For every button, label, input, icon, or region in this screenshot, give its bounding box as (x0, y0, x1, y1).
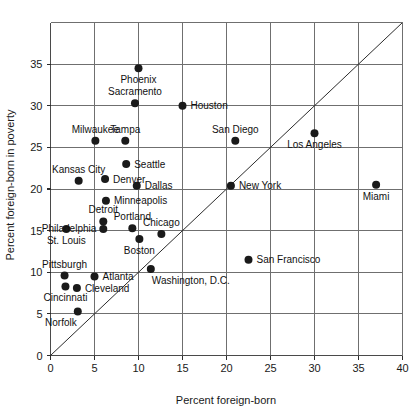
data-point-label: St. Louis (47, 235, 86, 246)
data-point (61, 272, 69, 280)
data-point (147, 265, 155, 273)
x-axis-title: Percent foreign-born (176, 394, 276, 406)
data-point (311, 129, 319, 137)
data-point-label: San Diego (212, 124, 259, 135)
data-point (135, 64, 143, 72)
data-point (74, 307, 82, 315)
data-point-label: Washington, D.C. (152, 275, 230, 286)
scatter-plot-canvas: 0510152025303540 05101520253035 PhoenixS… (0, 0, 417, 414)
data-point-labels: PhoenixSacramentoHoustonLos AngelesMilwa… (42, 74, 390, 328)
x-tick-label: 20 (220, 362, 232, 374)
x-tick-label: 30 (308, 362, 320, 374)
data-point (75, 177, 83, 185)
data-point-label: Cleveland (85, 283, 129, 294)
data-point-label: Denver (113, 174, 146, 185)
data-point-label: Norfolk (45, 317, 78, 328)
y-axis-tick-labels: 05101520253035 (30, 58, 42, 361)
data-point (231, 137, 239, 145)
y-tick-label: 25 (30, 141, 42, 153)
scatter-chart: 0510152025303540 05101520253035 PhoenixS… (0, 0, 417, 414)
data-point-label: Chicago (143, 217, 180, 228)
y-tick-label: 30 (30, 100, 42, 112)
y-tick-label: 10 (30, 266, 42, 278)
data-point-label: Pittsburgh (42, 259, 87, 270)
x-tick-label: 15 (176, 362, 188, 374)
data-point (157, 230, 165, 238)
y-tick-label: 35 (30, 58, 42, 70)
data-point (372, 181, 380, 189)
data-point (61, 282, 69, 290)
x-tick-label: 35 (352, 362, 364, 374)
data-point-label: Phoenix (120, 74, 156, 85)
data-point (91, 272, 99, 280)
data-point-label: Miami (363, 191, 390, 202)
data-point-label: Sacramento (108, 86, 162, 97)
data-point (245, 256, 253, 264)
x-axis-tick-labels: 0510152025303540 (47, 362, 408, 374)
data-point-label: Seattle (134, 159, 166, 170)
data-point-label: Los Angeles (287, 139, 342, 150)
data-point-label: Houston (191, 100, 228, 111)
y-tick-label: 20 (30, 183, 42, 195)
data-point (131, 99, 139, 107)
data-point (73, 284, 81, 292)
data-point (102, 197, 110, 205)
data-point (99, 217, 107, 225)
data-point (122, 160, 130, 168)
data-point-label: Dallas (145, 180, 173, 191)
data-point (121, 137, 129, 145)
data-point-label: Kansas City (52, 164, 105, 175)
data-point (179, 102, 187, 110)
data-point-label: Atlanta (103, 271, 135, 282)
data-point-label: Philadelphia (42, 223, 97, 234)
data-point-label: San Francisco (257, 254, 321, 265)
data-point-label: Boston (124, 245, 155, 256)
data-point (101, 175, 109, 183)
y-tick-label: 0 (36, 350, 42, 362)
data-point-label: New York (239, 180, 282, 191)
x-tick-label: 0 (47, 362, 53, 374)
y-tick-label: 5 (36, 308, 42, 320)
x-tick-label: 5 (91, 362, 97, 374)
data-point-label: Minneapolis (114, 195, 167, 206)
y-tick-label: 15 (30, 225, 42, 237)
data-point (135, 235, 143, 243)
data-point (227, 182, 235, 190)
data-point-label: Cincinnati (43, 292, 87, 303)
data-point (99, 225, 107, 233)
data-point-label: Tampa (110, 124, 140, 135)
x-tick-label: 40 (396, 362, 408, 374)
x-tick-label: 25 (264, 362, 276, 374)
data-point (91, 137, 99, 145)
y-axis-title: Percent foreign-born in poverty (4, 109, 16, 261)
data-point (128, 224, 136, 232)
x-tick-label: 10 (132, 362, 144, 374)
